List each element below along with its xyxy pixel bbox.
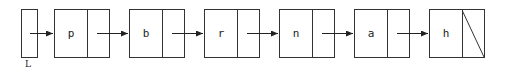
pointer-arrows xyxy=(0,0,505,71)
